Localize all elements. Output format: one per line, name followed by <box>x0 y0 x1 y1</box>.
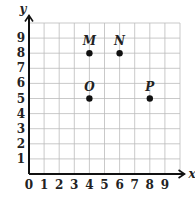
y-tick-label: 1 <box>17 152 25 166</box>
x-tick-label: 1 <box>40 178 48 192</box>
y-tick-label: 3 <box>17 122 25 136</box>
point-label: O <box>84 80 95 94</box>
data-point <box>147 95 153 101</box>
point-label: N <box>113 34 126 48</box>
y-tick-label: 7 <box>17 61 25 75</box>
coordinate-grid-chart: xy0123456789123456789MNOP <box>0 0 195 197</box>
x-tick-label: 2 <box>55 178 63 192</box>
x-tick-label: 4 <box>85 178 93 192</box>
data-point <box>86 95 92 101</box>
x-axis-label: x <box>188 167 195 181</box>
x-tick-label: 6 <box>115 178 123 192</box>
x-tick-label: 9 <box>161 178 169 192</box>
y-tick-label: 4 <box>17 107 25 121</box>
y-tick-label: 2 <box>17 137 25 151</box>
x-tick-label: 3 <box>70 178 78 192</box>
data-point <box>86 50 92 56</box>
point-label: M <box>82 34 97 48</box>
x-tick-label: 7 <box>131 178 139 192</box>
y-tick-label: 5 <box>17 92 25 106</box>
x-tick-label: 5 <box>100 178 108 192</box>
y-tick-label: 6 <box>17 76 25 90</box>
point-label: P <box>144 80 155 94</box>
x-tick-label: 0 <box>25 178 33 192</box>
y-tick-label: 9 <box>17 31 25 45</box>
data-point <box>116 50 122 56</box>
x-tick-label: 8 <box>146 178 154 192</box>
y-axis-label: y <box>19 2 28 16</box>
y-tick-label: 8 <box>17 46 25 60</box>
